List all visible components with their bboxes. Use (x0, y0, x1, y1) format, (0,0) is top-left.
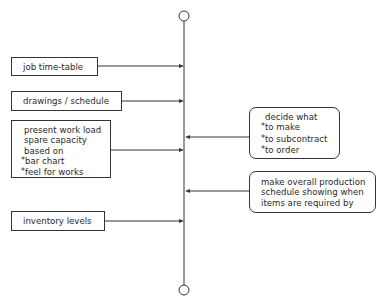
bullet-item: *bar chart (21, 156, 110, 167)
input-label: drawings / schedule (23, 96, 121, 106)
input-label: present work load (24, 125, 110, 135)
output-box-decide-what: decide what *to make *to subcontract *to… (249, 107, 340, 159)
input-label: job time-table (23, 62, 97, 72)
output-label: items are required by (261, 198, 375, 208)
bullet-glyph: * (261, 122, 265, 131)
bullet-item: *to order (261, 145, 339, 156)
bullet-item: *feel for works (21, 167, 110, 178)
input-label: spare capacity (24, 135, 110, 145)
output-label: make overall production (261, 177, 375, 187)
spine-end-node (179, 285, 189, 295)
output-label: schedule showing when (261, 187, 375, 197)
input-box-job-timetable: job time-table (11, 57, 98, 76)
diagram-canvas: job time-table drawings / schedule prese… (0, 0, 383, 305)
input-box-drawings-schedule: drawings / schedule (11, 91, 122, 111)
output-box-production-schedule: make overall production schedule showing… (249, 171, 376, 213)
input-label: inventory levels (23, 216, 104, 226)
bullet-item: *to subcontract (261, 134, 339, 145)
bullet-item: *to make (261, 122, 339, 133)
spine-start-node (179, 11, 189, 21)
bullet-glyph: * (261, 134, 265, 143)
bullet-glyph: * (21, 167, 25, 176)
bullet-glyph: * (261, 145, 265, 154)
input-label: based on (24, 146, 110, 156)
input-box-present-work-load: present work load spare capacity based o… (11, 120, 111, 178)
output-label: decide what (265, 112, 339, 122)
bullet-glyph: * (21, 156, 25, 165)
input-box-inventory-levels: inventory levels (11, 211, 105, 231)
